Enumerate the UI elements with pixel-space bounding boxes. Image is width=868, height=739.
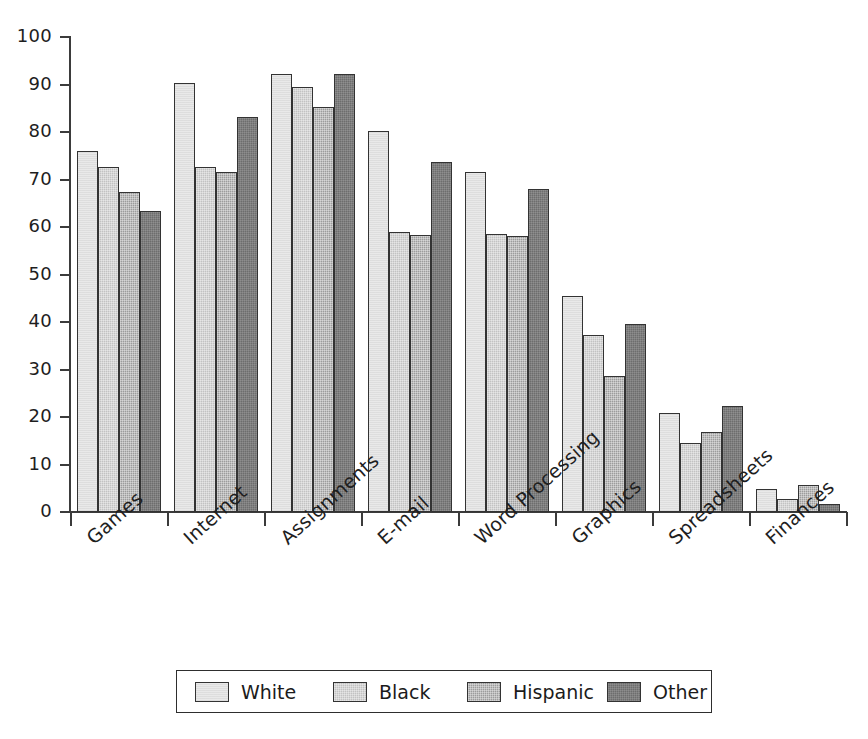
bar (583, 335, 604, 512)
y-axis-tick (60, 36, 70, 38)
bar (562, 296, 583, 512)
bar (174, 83, 195, 512)
bar (271, 74, 292, 512)
x-axis-separator (167, 512, 169, 526)
legend-label: Black (379, 681, 430, 703)
y-axis-tick (60, 226, 70, 228)
bar-group (361, 37, 458, 512)
legend-item: Other (607, 680, 707, 704)
bar-group (652, 37, 749, 512)
plot-area (70, 37, 846, 512)
x-axis-separator (846, 512, 848, 526)
y-axis-tick (60, 274, 70, 276)
y-axis-tick-label: 20 (0, 405, 52, 426)
bar-group (264, 37, 361, 512)
x-axis-separator (555, 512, 557, 526)
bar (77, 151, 98, 512)
y-axis-tick (60, 369, 70, 371)
bar (486, 234, 507, 512)
bar (659, 413, 680, 512)
x-axis-separator (70, 512, 72, 526)
bar (195, 167, 216, 512)
y-axis-tick (60, 131, 70, 133)
bar (292, 87, 313, 512)
y-axis-tick-label: 80 (0, 120, 52, 141)
legend-label: White (241, 681, 296, 703)
y-axis-tick-label: 50 (0, 263, 52, 284)
y-axis-tick-label: 0 (0, 500, 52, 521)
y-axis-tick (60, 179, 70, 181)
y-axis-tick-label: 100 (0, 25, 52, 46)
bar (237, 117, 258, 512)
x-axis-separator (458, 512, 460, 526)
legend-label: Hispanic (513, 681, 594, 703)
bar (98, 167, 119, 512)
bar (756, 489, 777, 512)
bar-group (70, 37, 167, 512)
y-axis-tick-label: 10 (0, 453, 52, 474)
legend-item: Hispanic (467, 680, 594, 704)
y-axis-tick-label: 70 (0, 168, 52, 189)
legend-item: White (195, 680, 296, 704)
legend-swatch (607, 682, 641, 702)
bar (507, 236, 528, 512)
legend-swatch (467, 682, 501, 702)
bar-group (167, 37, 264, 512)
legend-label: Other (653, 681, 707, 703)
bar-group (749, 37, 846, 512)
x-axis-separator (652, 512, 654, 526)
y-axis-tick (60, 84, 70, 86)
y-axis-tick-label: 90 (0, 73, 52, 94)
x-axis-separator (749, 512, 751, 526)
y-axis-tick-label: 60 (0, 215, 52, 236)
bar (313, 107, 334, 512)
y-axis-tick (60, 321, 70, 323)
bar (431, 162, 452, 512)
bar-group (458, 37, 555, 512)
y-axis-tick (60, 464, 70, 466)
legend-item: Black (333, 680, 430, 704)
bar (119, 192, 140, 512)
legend: WhiteBlackHispanicOther (176, 670, 712, 713)
bar (410, 235, 431, 512)
bar (465, 172, 486, 512)
y-axis-tick (60, 511, 70, 513)
bar (334, 74, 355, 512)
x-axis-separator (361, 512, 363, 526)
bar-chart: 1009080706050403020100 GamesInternetAssi… (0, 0, 868, 739)
y-axis-tick (60, 416, 70, 418)
y-axis-tick-label: 40 (0, 310, 52, 331)
bar (216, 172, 237, 512)
y-axis-tick-label: 30 (0, 358, 52, 379)
legend-swatch (333, 682, 367, 702)
bar (140, 211, 161, 512)
bar (389, 232, 410, 512)
legend-swatch (195, 682, 229, 702)
x-axis-separator (264, 512, 266, 526)
